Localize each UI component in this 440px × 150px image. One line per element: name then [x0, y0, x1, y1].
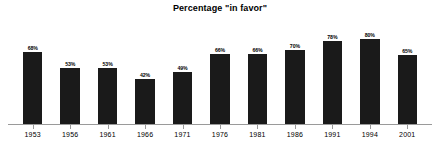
bar — [285, 50, 304, 124]
bar-value-label: 66% — [252, 47, 262, 53]
axis-tick — [70, 125, 71, 129]
bar — [23, 52, 42, 124]
axis-tick — [33, 125, 34, 129]
axis-tick — [370, 125, 371, 129]
x-axis-tick-label: 1961 — [99, 131, 115, 138]
axis-tick — [295, 125, 296, 129]
bar-group: 49% — [173, 18, 192, 124]
bar-value-label: 78% — [327, 34, 337, 40]
bar-value-label: 65% — [402, 48, 412, 54]
bar-group: 78% — [323, 18, 342, 124]
bar-value-label: 53% — [103, 61, 113, 67]
x-axis-tick-label: 1976 — [212, 131, 228, 138]
bar — [360, 39, 379, 124]
bar-group: 53% — [98, 18, 117, 124]
bar-group: 65% — [398, 18, 417, 124]
plot-area: 68%53%53%42%49%66%66%70%78%80%65% — [14, 18, 426, 124]
bar-group: 66% — [210, 18, 229, 124]
x-axis-tick-label: 1956 — [62, 131, 78, 138]
bar — [323, 41, 342, 124]
bar-group: 66% — [248, 18, 267, 124]
bar — [398, 55, 417, 124]
x-axis-tick-label: 1953 — [25, 131, 41, 138]
x-axis-labels: 1953195619611966197119761981198619911994… — [14, 131, 426, 145]
bar — [98, 68, 117, 124]
bar-chart-figure: Percentage "in favor" 68%53%53%42%49%66%… — [0, 0, 440, 150]
axis-tick — [407, 125, 408, 129]
axis-tick — [108, 125, 109, 129]
bar-value-label: 42% — [140, 72, 150, 78]
bar-group: 42% — [135, 18, 154, 124]
chart-title: Percentage "in favor" — [0, 3, 440, 13]
bar-value-label: 68% — [28, 45, 38, 51]
bar-group: 80% — [360, 18, 379, 124]
axis-tick — [332, 125, 333, 129]
bar-value-label: 80% — [365, 32, 375, 38]
x-axis-tick-label: 1981 — [249, 131, 265, 138]
bar — [210, 54, 229, 124]
bar-group: 70% — [285, 18, 304, 124]
bar — [60, 68, 79, 124]
axis-tick — [145, 125, 146, 129]
x-axis-tick-label: 1986 — [287, 131, 303, 138]
axis-tick — [183, 125, 184, 129]
bar — [173, 72, 192, 124]
bar-group: 53% — [60, 18, 79, 124]
axis-tick — [220, 125, 221, 129]
bar-value-label: 70% — [290, 43, 300, 49]
bar-value-label: 66% — [215, 47, 225, 53]
x-axis-tick-label: 2001 — [399, 131, 415, 138]
axis-tick — [257, 125, 258, 129]
bar-group: 68% — [23, 18, 42, 124]
x-axis-tick-label: 1966 — [137, 131, 153, 138]
x-axis-ticks — [14, 125, 426, 130]
bar — [135, 79, 154, 124]
x-axis-tick-label: 1991 — [324, 131, 340, 138]
x-axis-tick-label: 1971 — [174, 131, 190, 138]
bar-value-label: 53% — [65, 61, 75, 67]
bar-value-label: 49% — [177, 65, 187, 71]
bar — [248, 54, 267, 124]
x-axis-tick-label: 1994 — [362, 131, 378, 138]
